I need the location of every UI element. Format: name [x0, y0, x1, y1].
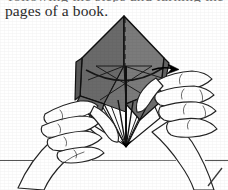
right-hand	[136, 71, 217, 190]
origami-illustration	[0, 0, 228, 190]
left-hand	[18, 101, 119, 190]
scanned-page: following the steps and turning the page…	[0, 0, 228, 190]
